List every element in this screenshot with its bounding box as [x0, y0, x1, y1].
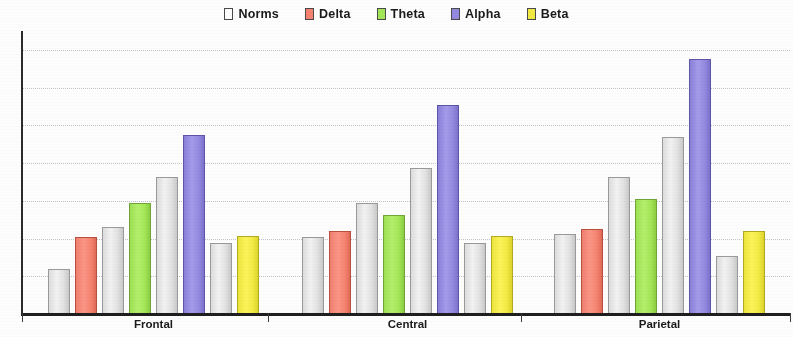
bar-central-alpha-5	[437, 105, 459, 314]
bar-chart: NormsDeltaThetaAlphaBeta FrontalCentralP…	[0, 0, 793, 337]
bar-frontal-norms-6	[210, 243, 232, 314]
bar-frontal-beta-7	[237, 236, 259, 314]
x-axis-tick	[521, 313, 522, 322]
x-axis-line	[21, 313, 791, 316]
gridline	[22, 50, 790, 51]
bar-frontal-norms-2	[102, 227, 124, 314]
bar-central-norms-2	[356, 203, 378, 314]
bar-central-norms-0	[302, 237, 324, 314]
legend-swatch-beta-icon	[527, 8, 536, 20]
legend-swatch-norms-icon	[224, 8, 233, 20]
bar-parietal-alpha-5	[689, 59, 711, 314]
bar-frontal-norms-0	[48, 269, 70, 314]
legend-swatch-alpha-icon	[451, 8, 460, 20]
legend-item-norms[interactable]: Norms	[224, 7, 279, 21]
bar-parietal-norms-6	[716, 256, 738, 314]
legend-item-alpha[interactable]: Alpha	[451, 7, 501, 21]
y-axis-line	[21, 31, 23, 315]
bar-frontal-norms-4	[156, 177, 178, 314]
bar-frontal-alpha-5	[183, 135, 205, 314]
x-axis-label-parietal: Parietal	[639, 318, 681, 330]
bar-parietal-norms-0	[554, 234, 576, 314]
legend-item-beta[interactable]: Beta	[527, 7, 569, 21]
x-axis-tick	[22, 313, 23, 322]
bar-frontal-delta-1	[75, 237, 97, 314]
gridline	[22, 88, 790, 89]
bar-parietal-delta-1	[581, 229, 603, 314]
legend-item-delta[interactable]: Delta	[305, 7, 351, 21]
plot-area	[22, 31, 790, 314]
x-axis-tick	[790, 313, 791, 322]
legend-swatch-theta-icon	[377, 8, 386, 20]
bar-frontal-theta-3	[129, 203, 151, 314]
bar-parietal-norms-2	[608, 177, 630, 314]
legend-label: Theta	[391, 7, 425, 21]
x-axis-label-frontal: Frontal	[134, 318, 173, 330]
legend-item-theta[interactable]: Theta	[377, 7, 425, 21]
bar-parietal-theta-3	[635, 199, 657, 314]
bar-central-norms-4	[410, 168, 432, 314]
legend-label: Beta	[541, 7, 569, 21]
chart-legend: NormsDeltaThetaAlphaBeta	[0, 0, 793, 27]
legend-label: Delta	[319, 7, 351, 21]
x-axis-label-central: Central	[388, 318, 428, 330]
legend-label: Norms	[238, 7, 279, 21]
bar-parietal-norms-4	[662, 137, 684, 314]
bar-parietal-beta-7	[743, 231, 765, 314]
bar-central-theta-3	[383, 215, 405, 314]
gridline	[22, 125, 790, 126]
legend-label: Alpha	[465, 7, 501, 21]
x-axis-tick	[268, 313, 269, 322]
bar-central-beta-7	[491, 236, 513, 314]
legend-swatch-delta-icon	[305, 8, 314, 20]
bar-central-delta-1	[329, 231, 351, 314]
bar-central-norms-6	[464, 243, 486, 314]
